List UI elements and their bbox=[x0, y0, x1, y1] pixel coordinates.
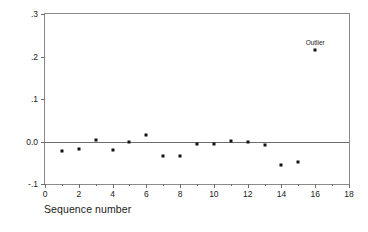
x-axis-tick: 12 bbox=[248, 184, 249, 188]
data-point bbox=[111, 148, 114, 151]
x-axis-minor-tick bbox=[197, 184, 198, 186]
x-axis-tick: 18 bbox=[349, 184, 350, 188]
data-point bbox=[314, 48, 317, 51]
data-point bbox=[77, 147, 80, 150]
x-axis-tick: 6 bbox=[146, 184, 147, 188]
x-axis-tick-label: 2 bbox=[76, 189, 81, 199]
x-axis-minor-tick bbox=[62, 184, 63, 186]
y-axis-tick: .1 bbox=[41, 99, 45, 100]
x-axis-tick: 0 bbox=[45, 184, 46, 188]
x-axis-tick: 8 bbox=[180, 184, 181, 188]
data-point bbox=[280, 163, 283, 166]
data-point bbox=[246, 140, 249, 143]
data-point bbox=[94, 139, 97, 142]
y-axis-tick: 0.0 bbox=[41, 142, 45, 143]
y-axis-tick-label: -.1 bbox=[28, 179, 38, 189]
x-axis-minor-tick bbox=[332, 184, 333, 186]
y-axis-tick-label: .3 bbox=[31, 9, 38, 19]
x-axis-tick-label: 0 bbox=[43, 189, 48, 199]
x-axis-minor-tick bbox=[129, 184, 130, 186]
x-axis-tick-label: 6 bbox=[144, 189, 149, 199]
data-point bbox=[162, 154, 165, 157]
x-axis-minor-tick bbox=[265, 184, 266, 186]
data-point bbox=[196, 143, 199, 146]
scatter-plot-figure: Change in slope -.10.0.1.2.3024681012141… bbox=[0, 0, 368, 232]
x-axis-tick: 16 bbox=[315, 184, 316, 188]
x-axis-tick-label: 10 bbox=[209, 189, 218, 199]
data-point bbox=[128, 141, 131, 144]
data-point bbox=[229, 140, 232, 143]
plot-area: -.10.0.1.2.3024681012141618Outlier bbox=[44, 13, 350, 185]
x-axis-tick-label: 18 bbox=[344, 189, 353, 199]
y-axis-tick: .2 bbox=[41, 57, 45, 58]
x-axis-tick: 14 bbox=[281, 184, 282, 188]
data-point bbox=[60, 149, 63, 152]
y-axis-tick-label: .2 bbox=[31, 52, 38, 62]
x-axis-minor-tick bbox=[163, 184, 164, 186]
x-axis-tick-label: 4 bbox=[110, 189, 115, 199]
x-axis-tick: 2 bbox=[79, 184, 80, 188]
y-axis-tick: .3 bbox=[41, 14, 45, 15]
data-point bbox=[263, 143, 266, 146]
x-axis-tick-label: 12 bbox=[243, 189, 252, 199]
x-axis-tick: 4 bbox=[113, 184, 114, 188]
outlier-annotation: Outlier bbox=[306, 39, 325, 46]
data-point bbox=[145, 134, 148, 137]
x-axis-minor-tick bbox=[231, 184, 232, 186]
x-axis-tick: 10 bbox=[214, 184, 215, 188]
x-axis-tick-label: 14 bbox=[277, 189, 286, 199]
x-axis-tick-label: 16 bbox=[310, 189, 319, 199]
x-axis-minor-tick bbox=[96, 184, 97, 186]
data-point bbox=[179, 154, 182, 157]
x-axis-minor-tick bbox=[298, 184, 299, 186]
x-axis-label: Sequence number bbox=[44, 203, 131, 215]
data-point bbox=[297, 160, 300, 163]
data-point bbox=[212, 143, 215, 146]
y-axis-tick-label: .1 bbox=[31, 94, 38, 104]
y-axis-tick-label: 0.0 bbox=[26, 137, 38, 147]
x-axis-tick-label: 8 bbox=[178, 189, 183, 199]
